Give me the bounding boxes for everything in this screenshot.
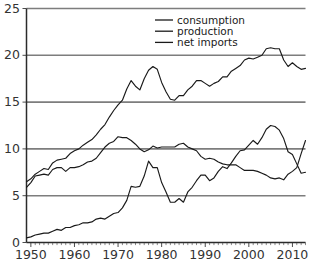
x-tick-label: 1960 <box>59 247 91 262</box>
y-tick-label: 10 <box>4 141 20 156</box>
x-tick-label: 2000 <box>233 247 265 262</box>
x-tick-label: 1990 <box>189 247 221 262</box>
x-tick-label: 2010 <box>277 247 309 262</box>
legend-label-net-imports: net imports <box>177 36 238 48</box>
x-axis-tick-labels: 1950196019701980199020002010 <box>15 247 308 262</box>
line-chart: 0510152025 1950196019701980199020002010 … <box>0 0 311 266</box>
x-tick-label: 1980 <box>146 247 178 262</box>
y-tick-label: 20 <box>4 47 20 62</box>
legend-label-consumption: consumption <box>177 14 245 26</box>
y-tick-label: 25 <box>4 1 20 16</box>
x-tick-label: 1950 <box>15 247 47 262</box>
chart-container: 0510152025 1950196019701980199020002010 … <box>0 0 311 266</box>
y-tick-label: 15 <box>4 94 20 109</box>
x-tick-label: 1970 <box>102 247 134 262</box>
legend-label-production: production <box>177 25 233 37</box>
y-tick-label: 5 <box>12 188 20 203</box>
